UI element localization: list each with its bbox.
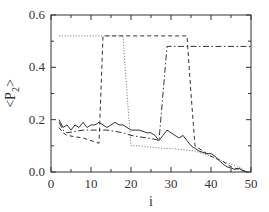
- line-chart: 010203040500.00.20.40.6 i <P2>: [0, 0, 269, 212]
- x-tick-label: 0: [48, 176, 55, 191]
- series-dashed: [59, 36, 247, 172]
- series-dotted: [59, 36, 247, 172]
- y-axis-label-text: <P2>: [3, 79, 21, 108]
- axis-ticks: [51, 15, 251, 172]
- x-tick-label: 10: [85, 176, 98, 191]
- x-tick-label: 40: [205, 176, 218, 191]
- series-layer: [59, 36, 251, 172]
- x-axis-label: i: [149, 194, 153, 209]
- x-tick-label: 30: [165, 176, 178, 191]
- y-tick-label: 0.6: [29, 7, 46, 22]
- series-solid: [59, 120, 247, 172]
- y-tick-label: 0.0: [29, 164, 45, 179]
- y-axis-label: <P2>: [3, 79, 21, 108]
- x-tick-label: 20: [125, 176, 138, 191]
- y-tick-label: 0.2: [29, 112, 45, 127]
- y-tick-label: 0.4: [29, 59, 46, 74]
- plot-frame: [51, 15, 251, 172]
- tick-labels: 010203040500.00.20.40.6: [29, 7, 258, 191]
- x-tick-label: 50: [245, 176, 258, 191]
